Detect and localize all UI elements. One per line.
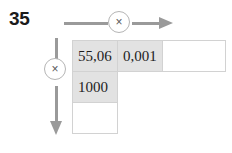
grid-cell-r2c1[interactable]: 1000	[72, 71, 118, 103]
arrow-shaft-right	[132, 22, 160, 25]
arrow-down-icon	[50, 121, 62, 135]
vertical-multiply-symbol: ×	[45, 59, 65, 79]
grid-cell-r1c1[interactable]: 55,06	[72, 40, 118, 72]
grid-cell-r1c3[interactable]	[162, 40, 226, 72]
grid-cell-r3c1[interactable]	[72, 102, 118, 134]
table-row	[72, 102, 225, 133]
vertical-multiply-circle-icon: ×	[44, 58, 66, 80]
answer-grid: 55,06 0,001 1000	[72, 40, 225, 133]
table-row: 1000	[72, 71, 225, 102]
table-row: 55,06 0,001	[72, 40, 225, 71]
arrow-shaft-bottom	[55, 86, 58, 122]
grid-cell-r1c2[interactable]: 0,001	[117, 40, 163, 72]
grid-cell-r2c3-spacer	[162, 71, 226, 103]
exercise-number: 35	[9, 9, 30, 29]
arrow-shaft-left	[64, 22, 108, 25]
grid-cell-r2c2-spacer	[117, 71, 163, 103]
horizontal-multiply-symbol: ×	[109, 12, 129, 32]
worksheet-exercise: 35 × × 55,06 0,001 1000	[0, 0, 232, 153]
grid-cell-r3c2-spacer	[117, 102, 163, 134]
arrow-right-icon	[159, 17, 173, 29]
vertical-operation-arrow	[47, 38, 67, 138]
grid-cell-r3c3-spacer	[162, 102, 226, 134]
horizontal-multiply-circle-icon: ×	[108, 11, 130, 33]
